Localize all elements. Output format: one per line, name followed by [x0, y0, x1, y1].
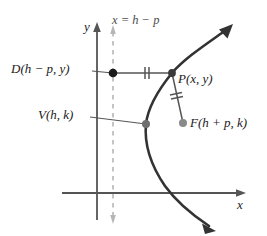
point-d-dot: [109, 69, 118, 78]
point-p-label: P(x, y): [178, 72, 213, 85]
point-f-dot: [179, 119, 187, 127]
y-axis-label: y: [84, 20, 90, 33]
directrix-bottom-arrowhead: [110, 215, 116, 224]
x-axis-arrowhead: [236, 189, 246, 197]
point-d-label: D(h − p, y): [11, 62, 70, 75]
y-axis-arrowhead: [93, 22, 101, 32]
x-axis-label: x: [237, 198, 243, 211]
x-axis: [62, 189, 246, 197]
parabola-figure: y x x = h − p D(h − p, y) P(x, y) V(h, k…: [0, 0, 267, 236]
point-v-label: V(h, k): [38, 108, 73, 121]
point-f-label: F(h + p, k): [190, 116, 247, 129]
y-axis: [93, 22, 101, 220]
parabola-upper-arrowhead: [219, 24, 233, 39]
segment-d-to-p: [113, 67, 172, 79]
point-p-dot: [168, 69, 176, 77]
directrix-label: x = h − p: [112, 14, 159, 27]
point-v-dot: [142, 120, 150, 128]
directrix-line: [110, 25, 116, 224]
leader-line-v: [90, 117, 146, 124]
